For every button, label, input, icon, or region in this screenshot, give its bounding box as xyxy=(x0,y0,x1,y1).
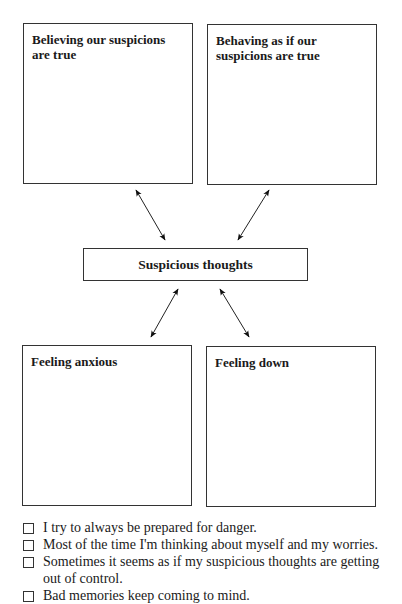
arrows-layer xyxy=(0,0,402,604)
arrow-center-believing xyxy=(136,190,165,240)
checklist-item-text: Bad memories keep coming to mind. xyxy=(43,587,392,604)
checkbox[interactable] xyxy=(23,523,34,534)
arrow-center-down xyxy=(220,289,249,337)
arrow-center-anxious xyxy=(151,289,178,337)
checklist-item: Most of the time I'm thinking about myse… xyxy=(22,536,392,553)
checklist: I try to always be prepared for danger. … xyxy=(22,519,392,604)
checklist-item-text: Most of the time I'm thinking about myse… xyxy=(43,536,392,553)
checklist-item: Sometimes it seems as if my suspicious t… xyxy=(22,553,392,587)
checklist-item-text: I try to always be prepared for danger. xyxy=(43,519,392,536)
checklist-item: Bad memories keep coming to mind. xyxy=(22,587,392,604)
checklist-item-text: Sometimes it seems as if my suspicious t… xyxy=(43,553,392,587)
checkbox[interactable] xyxy=(23,591,34,602)
checkbox[interactable] xyxy=(23,540,34,551)
checkbox[interactable] xyxy=(23,557,34,568)
arrow-center-behaving xyxy=(238,190,269,240)
checklist-item: I try to always be prepared for danger. xyxy=(22,519,392,536)
